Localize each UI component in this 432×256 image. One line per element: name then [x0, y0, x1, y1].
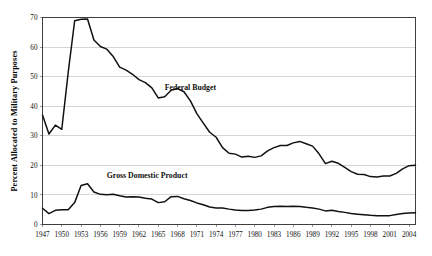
y-tick-label: 20 [30, 162, 38, 170]
x-tick-label: 1965 [151, 231, 166, 239]
x-tick-label: 1992 [325, 231, 340, 239]
x-tick-label: 1950 [55, 231, 70, 239]
series-label-gross-domestic-product: Gross Domestic Product [107, 171, 188, 180]
x-tick-label: 2004 [402, 231, 417, 239]
x-axis-ticks: 1947195019531956195919621965196819711974… [35, 225, 416, 239]
x-tick-label: 2001 [383, 231, 398, 239]
x-tick-label: 1968 [170, 231, 185, 239]
y-tick-label: 70 [30, 14, 38, 22]
gridlines [43, 47, 416, 195]
x-tick-label: 1953 [74, 231, 89, 239]
y-axis-title: Percent Allocated to Military Purposes [10, 50, 19, 191]
x-tick-label: 1962 [132, 231, 147, 239]
series-line-federal-budget [43, 19, 416, 177]
x-tick-label: 1947 [35, 231, 50, 239]
y-tick-label: 60 [30, 44, 38, 52]
line-chart: 010203040506070 194719501953195619591962… [0, 0, 432, 256]
x-tick-label: 1980 [248, 231, 263, 239]
series-label-federal-budget: Federal Budget [165, 83, 217, 92]
x-tick-label: 1974 [209, 231, 224, 239]
y-tick-label: 0 [34, 221, 38, 229]
data-series [43, 19, 416, 216]
series-line-gross-domestic-product [43, 184, 416, 216]
y-tick-label: 10 [30, 192, 38, 200]
x-tick-label: 1977 [228, 231, 243, 239]
y-tick-label: 30 [30, 132, 38, 140]
x-tick-label: 1989 [305, 231, 320, 239]
y-tick-label: 40 [30, 103, 38, 111]
x-tick-label: 1971 [190, 231, 205, 239]
x-tick-label: 1983 [267, 231, 282, 239]
y-axis-ticks: 010203040506070 [30, 14, 42, 229]
chart-container: 010203040506070 194719501953195619591962… [0, 0, 432, 256]
x-tick-label: 1959 [112, 231, 127, 239]
y-tick-label: 50 [30, 73, 38, 81]
x-tick-label: 1995 [344, 231, 359, 239]
x-tick-label: 1998 [363, 231, 378, 239]
x-tick-label: 1986 [286, 231, 301, 239]
x-tick-label: 1956 [93, 231, 108, 239]
